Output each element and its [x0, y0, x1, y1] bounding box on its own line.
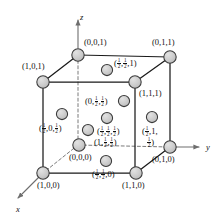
label-text: (0,1,0)	[152, 154, 175, 164]
atom-face-hh1	[101, 64, 112, 75]
y-axis-label: y	[206, 142, 210, 152]
label-text: (0,	[85, 96, 94, 106]
coordinate-label-corner-001: (0,0,1)	[84, 38, 107, 47]
coordinate-label-face-1hh: (1,12,12)	[94, 137, 117, 149]
label-text: )	[59, 123, 62, 133]
label-text: (1,1,0)	[122, 180, 145, 190]
label-text: (1,1,1)	[139, 88, 162, 98]
label-text: )	[117, 126, 120, 136]
z-axis-label: z	[80, 12, 83, 22]
label-text: ,0,	[46, 123, 55, 133]
atom-corner-111	[129, 76, 141, 88]
fraction: 12	[42, 123, 46, 135]
atom-corner-011	[164, 51, 176, 63]
fraction: 12	[95, 96, 99, 108]
cell-edge-hidden	[78, 145, 170, 147]
atom-face-1hh	[82, 124, 93, 135]
coordinate-label-face-0hh: (0,12,12)	[85, 96, 108, 108]
label-text: )	[114, 137, 117, 147]
coordinate-label-corner-110: (1,1,0)	[122, 181, 145, 190]
atom-face-hh0	[100, 155, 111, 166]
atom-corner-100	[37, 167, 49, 179]
atom-face-h1h	[146, 111, 157, 122]
unit-cell-figure: (0,0,1)(0,1,1)(1,0,1)(1,1,1)(0,0,0)(0,1,…	[0, 0, 221, 218]
label-text: (1,	[94, 137, 103, 147]
atom-face-0hh	[118, 95, 129, 106]
fraction: 12	[110, 137, 114, 149]
unit-cell-canvas	[0, 0, 221, 218]
coordinate-label-face-hh1: (12,12,1)	[114, 58, 137, 70]
atom-face-h0h	[56, 108, 67, 119]
label-text: )	[105, 96, 108, 106]
label-text: (0,1,1)	[152, 37, 175, 47]
label-text: ,1,	[149, 126, 158, 136]
label-text: (1,0,0)	[37, 180, 60, 190]
atom-corner-101	[37, 76, 49, 88]
coordinate-label-corner-000: (0,0,0)	[69, 153, 92, 162]
coordinate-label-face-hh0: (12,12,0)	[92, 169, 115, 181]
label-text: (0,0,0)	[69, 152, 92, 162]
fraction: 12	[104, 137, 108, 149]
atom-corner-000	[73, 139, 85, 151]
atom-corner-110	[130, 167, 142, 179]
atom-face-hhh	[101, 112, 112, 123]
label-text: (1,0,1)	[22, 61, 45, 71]
coordinate-label-corner-111: (1,1,1)	[139, 89, 162, 98]
coordinate-label-face-h0h: (12,0,12)	[39, 123, 62, 135]
fraction: 12	[101, 169, 105, 181]
fraction: 12	[113, 126, 117, 138]
fraction: 12	[95, 169, 99, 181]
label-text: ,0)	[105, 169, 114, 179]
fraction: 12	[101, 96, 105, 108]
fraction: 12	[117, 58, 121, 70]
atom-corner-001	[72, 49, 84, 61]
coordinate-label-corner-101: (1,0,1)	[22, 62, 45, 71]
x-axis-label: x	[16, 204, 20, 214]
atom-corner-010	[164, 141, 176, 153]
label-text: (0,0,1)	[84, 37, 107, 47]
coordinate-label-corner-100: (1,0,0)	[37, 181, 60, 190]
fraction: 12	[55, 123, 59, 135]
coordinate-label-face-h1h-cont: 12)	[147, 137, 154, 149]
coordinate-label-corner-010: (0,1,0)	[152, 155, 175, 164]
coordinate-label-corner-011: (0,1,1)	[152, 38, 175, 47]
label-text: )	[151, 137, 154, 147]
label-text: ,1)	[127, 58, 136, 68]
fraction: 12	[123, 58, 127, 70]
fraction: 12	[147, 137, 151, 149]
